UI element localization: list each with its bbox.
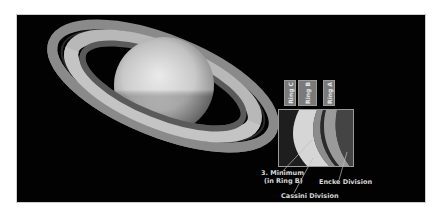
ring-a-label: Ring A [323, 80, 335, 106]
minimum-label: 3. Minimum (in Ring B) [261, 169, 304, 185]
ring-b-label: Ring B [298, 80, 317, 106]
saturn-image [17, 15, 426, 203]
astro-photo-frame: Ring C Ring B Ring A 3. Minimum (in Ring… [16, 14, 426, 203]
ring-c-label: Ring C [284, 80, 296, 106]
encke-division-label: Encke Division [319, 178, 372, 186]
ring-detail-inset [278, 109, 354, 167]
cassini-division-label: Cassini Division [281, 192, 339, 200]
